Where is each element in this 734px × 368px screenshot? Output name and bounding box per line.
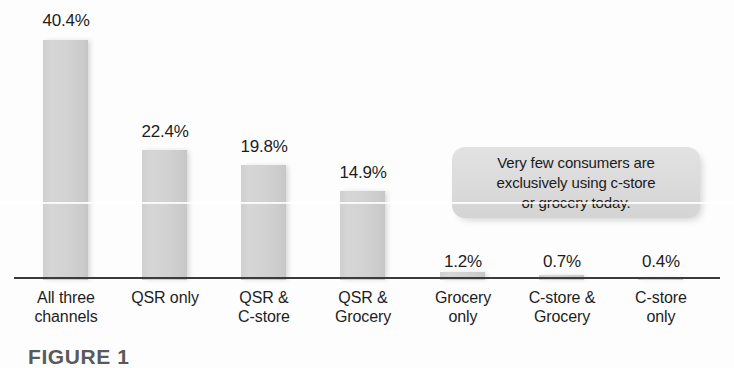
- bar-all-three-channels: [43, 40, 88, 280]
- bar-value-label-all-three-channels: 40.4%: [20, 11, 112, 31]
- category-label-qsr-and-c-store: QSR & C-store: [211, 288, 317, 326]
- category-label-qsr-and-grocery: QSR & Grocery: [310, 288, 416, 326]
- category-label-all-three-channels: All three channels: [13, 288, 119, 326]
- category-label-grocery-only: Grocery only: [410, 288, 516, 326]
- bar-value-label-c-store-and-grocery: 0.7%: [516, 252, 608, 272]
- category-label-c-store-only: C-store only: [608, 288, 714, 326]
- category-label-qsr-only: QSR only: [112, 288, 218, 307]
- bar-value-label-qsr-and-grocery: 14.9%: [317, 163, 409, 183]
- category-label-c-store-and-grocery: C-store & Grocery: [509, 288, 615, 326]
- figure-caption: FIGURE 1: [28, 345, 130, 368]
- bar-qsr-and-grocery: [340, 191, 385, 280]
- bar-qsr-and-c-store: [241, 165, 286, 280]
- bar-value-label-grocery-only: 1.2%: [417, 252, 509, 272]
- bar-value-label-qsr-and-c-store: 19.8%: [218, 137, 310, 157]
- bar-chart-plot-area: 40.4% 22.4% 19.8% 14.9% 1.2% 0.7% 0.4%: [0, 0, 734, 280]
- annotation-callout-box: Very few consumers are exclusively using…: [452, 147, 700, 218]
- figure-container: 40.4% 22.4% 19.8% 14.9% 1.2% 0.7% 0.4% A…: [0, 0, 734, 368]
- x-axis-line: [14, 277, 720, 279]
- bar-value-label-qsr-only: 22.4%: [119, 122, 211, 142]
- bar-value-label-c-store-only: 0.4%: [615, 252, 707, 272]
- bar-qsr-only: [142, 150, 187, 280]
- annotation-callout-text: Very few consumers are exclusively using…: [497, 153, 656, 213]
